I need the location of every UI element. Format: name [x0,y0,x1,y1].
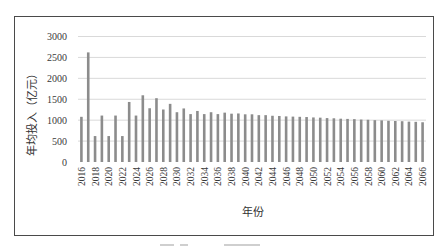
bar-2033 [196,111,199,162]
bar-2050 [312,117,315,162]
bar-2059 [374,120,377,162]
bar-2023 [128,102,131,162]
bars [80,52,424,162]
bar-2034 [203,114,206,162]
x-tick-label: 2046 [282,167,292,186]
y-tick-label: 1000 [47,115,67,126]
x-tick-label: 2060 [377,167,387,186]
x-tick-label: 2022 [118,167,128,186]
bar-2018 [94,136,97,162]
x-tick-label: 2058 [364,167,374,186]
bar-2024 [135,116,138,162]
x-tick-label: 2024 [132,167,142,186]
bar-2029 [169,104,172,162]
bar-2065 [414,122,417,162]
figure-caption-cropped [160,244,290,250]
x-tick-label: 2038 [227,167,237,186]
x-tick-label: 2036 [213,167,223,186]
bar-2045 [278,116,281,162]
bar-2020 [107,136,110,162]
bar-2049 [305,117,308,162]
bar-2053 [333,118,336,162]
bar-2051 [319,118,322,162]
bar-2021 [114,116,117,162]
y-tick-label: 2000 [47,73,67,84]
x-tick-label: 2048 [295,167,305,186]
x-tick-label: 2054 [336,167,346,186]
bar-2044 [271,116,274,162]
bar-2022 [121,136,124,162]
bar-2064 [408,122,411,162]
x-tick-label: 2034 [200,167,210,186]
y-tick-label: 500 [52,136,67,147]
bar-2046 [285,116,288,162]
x-tick-label: 2066 [418,167,428,186]
bar-2032 [189,114,192,162]
bar-2035 [210,112,213,162]
x-axis-title: 年份 [242,205,264,218]
x-tick-label: 2050 [309,167,319,186]
bar-2066 [421,122,424,162]
x-tick-label: 2040 [241,167,251,186]
bar-2038 [230,114,233,162]
bar-2058 [367,120,370,162]
x-tick-label: 2062 [391,167,401,186]
y-tick-label: 1500 [47,94,67,105]
x-axis-ticks: 2016201820202022202420262028203020322034… [77,167,428,186]
bar-2041 [251,114,254,162]
bar-2037 [223,113,226,162]
bar-2056 [353,119,356,162]
x-tick-label: 2026 [145,167,155,186]
bar-2039 [237,113,240,162]
x-tick-label: 2028 [159,167,169,186]
bar-2031 [182,108,185,162]
chart-frame: 050010001500200025003000 201620182020202… [14,16,434,236]
y-tick-label: 2500 [47,52,67,63]
bar-2042 [258,115,261,162]
bar-2063 [401,121,404,162]
x-tick-label: 2064 [404,167,414,186]
x-tick-label: 2030 [172,167,182,186]
bar-2030 [176,112,179,162]
y-tick-label: 3000 [47,31,67,42]
bar-2027 [155,98,158,162]
bar-2060 [380,120,383,162]
bar-2048 [298,117,301,162]
x-tick-label: 2052 [323,167,333,186]
x-tick-label: 2056 [350,167,360,186]
x-tick-label: 2018 [91,167,101,186]
bar-2026 [148,108,151,162]
bar-2016 [80,117,83,162]
x-tick-label: 2020 [104,167,114,186]
bar-2054 [339,119,342,162]
bar-2057 [360,120,363,162]
bar-2043 [264,115,267,162]
bar-2047 [292,117,295,162]
bar-2028 [162,110,165,163]
bar-2017 [87,52,90,162]
y-axis-ticks: 050010001500200025003000 [47,31,67,168]
bar-2025 [142,95,145,162]
x-tick-label: 2016 [77,167,87,186]
x-tick-label: 2032 [186,167,196,186]
bar-chart: 050010001500200025003000 201620182020202… [15,17,435,237]
x-tick-label: 2044 [268,167,278,186]
y-axis-title: 年均投入（亿元） [25,68,38,156]
bar-2052 [326,118,329,162]
bar-2062 [394,121,397,162]
x-tick-label: 2042 [254,167,264,186]
bar-2040 [244,114,247,162]
bar-2061 [387,121,390,162]
bar-2019 [101,116,104,162]
bar-2055 [346,119,349,162]
y-tick-label: 0 [62,157,67,168]
bar-2036 [217,114,220,162]
